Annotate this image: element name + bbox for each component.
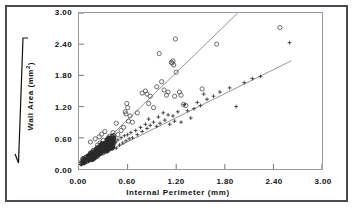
data-point-plus — [134, 129, 138, 133]
data-point-circle — [97, 135, 101, 139]
data-point-circle — [160, 80, 164, 84]
y-tick-label-zero: 0.00 — [36, 166, 72, 175]
data-point-circle — [278, 25, 282, 29]
data-point-plus — [158, 121, 162, 125]
data-point-circle — [172, 94, 176, 98]
y-tick-label-3: 3.00 — [36, 8, 72, 17]
data-point-circle — [147, 101, 151, 105]
data-point-plus — [242, 81, 246, 85]
x-tick-label-2: 1.20 — [156, 177, 196, 186]
y-tick-label-1: 1.80 — [36, 71, 72, 80]
data-point-plus — [186, 109, 190, 113]
data-point-circle — [116, 133, 120, 137]
data-point-plus — [212, 94, 216, 98]
data-point-plus — [152, 120, 156, 124]
x-tick-label-1: 0.60 — [107, 177, 147, 186]
data-point-plus — [144, 122, 148, 126]
data-point-circle — [162, 88, 166, 92]
x-tick-label-5: 3.00 — [303, 177, 343, 186]
y-axis-title: Wall Area (mm2) — [25, 37, 36, 155]
data-point-plus — [156, 115, 160, 119]
y-axis-title-close: ) — [26, 62, 35, 65]
data-point-circle — [200, 87, 204, 91]
y-axis-title-exponent: 2 — [25, 65, 31, 69]
data-point-plus — [288, 41, 292, 45]
y-tick-label-low: 0.60 — [36, 135, 72, 144]
data-point-circle — [88, 140, 92, 144]
data-point-plus — [163, 118, 167, 122]
data-point-circle — [135, 111, 139, 115]
data-point-plus — [205, 97, 209, 101]
y-tick-label-0: 1.20 — [36, 103, 72, 112]
data-point-plus — [179, 120, 183, 124]
data-point-plus — [168, 122, 172, 126]
data-point-plus — [173, 119, 177, 123]
data-point-circle — [215, 42, 219, 46]
y-axis-title-main: Wall Area — [26, 90, 35, 130]
data-point-circle — [157, 51, 161, 55]
data-point-circle — [126, 106, 130, 110]
data-point-plus — [119, 136, 123, 140]
x-tick-label-0: 0.00 — [58, 177, 98, 186]
figure-container: Wall Area (mm2) 3.00 2.40 1.80 1.20 0.60… — [0, 0, 356, 215]
data-point-plus — [139, 126, 143, 130]
data-point-circle — [103, 129, 107, 133]
data-point-plus — [148, 123, 152, 127]
data-point-plus — [129, 131, 133, 135]
data-point-plus — [218, 90, 222, 94]
data-point-circle — [121, 125, 125, 129]
data-point-plus — [199, 104, 203, 108]
data-point-circle — [114, 121, 118, 125]
data-point-plus — [189, 116, 193, 120]
data-point-plus — [171, 114, 175, 118]
data-point-plus — [228, 86, 232, 90]
data-point-plus — [161, 111, 165, 115]
data-point-circle — [155, 85, 159, 89]
data-point-plus — [234, 105, 238, 109]
data-point-circle — [151, 106, 155, 110]
data-point-plus — [166, 113, 170, 117]
data-point-plus — [126, 133, 130, 137]
data-point-plus — [140, 130, 144, 134]
data-point-circle — [126, 119, 130, 123]
x-axis-title: Internal Perimeter (mm) — [0, 188, 356, 197]
data-point-plus — [195, 101, 199, 105]
data-point-plus — [176, 110, 180, 114]
data-point-plus — [147, 117, 151, 121]
data-point-plus — [202, 92, 206, 96]
scatter-plot-svg — [79, 13, 322, 169]
data-point-circle — [130, 120, 134, 124]
data-point-circle — [173, 37, 177, 41]
x-tick-label-4: 2.40 — [254, 177, 294, 186]
plot-area — [78, 12, 323, 170]
data-point-circle — [93, 137, 97, 141]
y-axis-title-units: (mm — [26, 69, 35, 87]
y-tick-label-2: 2.40 — [36, 40, 72, 49]
data-point-plus — [122, 134, 126, 138]
data-point-plus — [145, 127, 149, 131]
data-point-circle — [125, 101, 129, 105]
x-tick-label-3: 1.80 — [205, 177, 245, 186]
